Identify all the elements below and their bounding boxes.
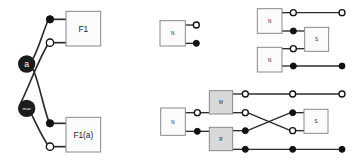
box-n-main-label: N (171, 120, 174, 125)
terminal-f1-top-filled[interactable] (46, 16, 53, 23)
node-a-label: a (24, 59, 29, 69)
terminal-far-filled-bottom[interactable] (339, 146, 345, 152)
box-m[interactable]: M (209, 91, 232, 114)
terminal-f1a-top-filled[interactable] (46, 120, 53, 127)
wire-a-to-f1-top (33, 20, 48, 59)
terminal-mid-open-top[interactable] (290, 91, 296, 97)
box-f1[interactable]: F1 (66, 11, 101, 46)
terminal-r-filled-bottom[interactable] (242, 146, 248, 152)
terminal-nl-filled[interactable] (290, 63, 296, 69)
terminal-r-filled-top[interactable] (242, 128, 248, 134)
box-s-lower[interactable]: S (304, 109, 328, 133)
terminal-far-open-top[interactable] (339, 91, 345, 97)
box-s-upper[interactable]: S (305, 27, 329, 51)
wire-a-to-f1a-top (33, 69, 49, 122)
left-group-wires (21, 19, 66, 146)
terminal-nu-filled[interactable] (290, 28, 296, 34)
box-m-label: M (219, 100, 223, 105)
network-diagram: F1 F1(a) a max N (0, 0, 363, 167)
terminal-f1-bottom-open[interactable] (46, 39, 53, 46)
terminal-n-single-open[interactable] (193, 22, 199, 28)
wire-max-to-f1-bottom (21, 43, 49, 103)
box-n-single[interactable]: N (160, 21, 185, 46)
box-r[interactable]: R (209, 127, 232, 150)
terminal-nm-open[interactable] (194, 110, 200, 116)
terminal-out-filled[interactable] (339, 63, 345, 69)
box-n-main[interactable]: N (161, 108, 186, 135)
box-f1a[interactable]: F1(a) (66, 117, 101, 152)
terminal-nr-filled[interactable] (194, 128, 200, 134)
terminal-mid-filled-bottom[interactable] (290, 146, 296, 152)
box-s-lower-label: S (314, 119, 317, 124)
box-n-upper[interactable]: N (257, 9, 282, 34)
terminal-f1a-bottom-open[interactable] (46, 143, 53, 150)
box-s-upper-label: S (315, 37, 318, 42)
terminal-s-filled-in[interactable] (290, 110, 296, 116)
terminal-n-single-filled[interactable] (193, 40, 199, 46)
box-n-lower[interactable]: N (257, 47, 282, 72)
box-n-upper-label: N (268, 19, 271, 24)
diagram-canvas: F1 F1(a) a max N (0, 0, 363, 167)
box-f1a-label: F1(a) (73, 130, 93, 140)
terminal-s-open-in[interactable] (290, 128, 296, 134)
node-a[interactable]: a (18, 55, 35, 72)
terminal-m-open-bottom[interactable] (242, 110, 248, 116)
box-f1-label: F1 (78, 24, 88, 34)
node-max-label: max (23, 106, 32, 111)
terminal-out-open[interactable] (339, 10, 345, 16)
terminal-m-open-top[interactable] (242, 91, 248, 97)
box-n-lower-label: N (268, 58, 271, 63)
terminal-nu-open[interactable] (290, 10, 296, 16)
single-n-group-wires (185, 25, 194, 43)
wire-max-to-f1a-bottom (32, 115, 49, 146)
box-n-single-label: N (171, 31, 174, 36)
node-max[interactable]: max (18, 100, 35, 117)
terminal-nl-open[interactable] (290, 46, 296, 52)
